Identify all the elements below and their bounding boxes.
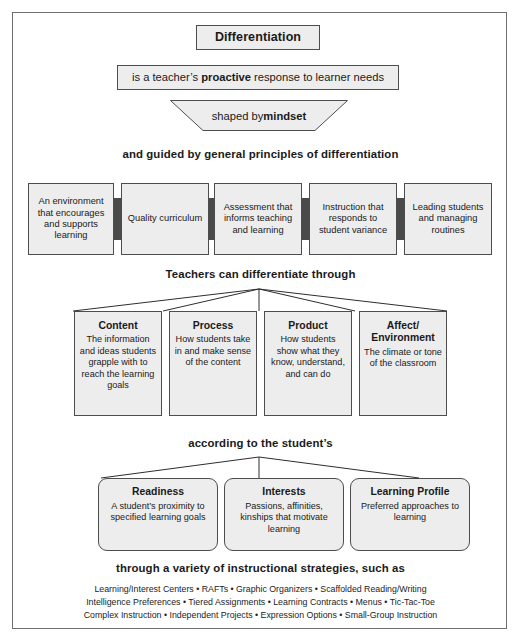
heading-strategies: through a variety of instructional strat… — [0, 562, 521, 574]
category-description: The information and ideas students grapp… — [79, 334, 157, 391]
principle-box-environment: An environment that encourages and suppo… — [28, 183, 114, 255]
heading-principles: and guided by general principles of diff… — [0, 148, 521, 160]
student-box-readiness: Readiness A student’s proximity to speci… — [98, 478, 218, 551]
statement-emphasis: proactive — [201, 71, 251, 83]
mindset-emphasis: mindset — [263, 110, 306, 122]
statement-box: is a teacher’s proactive response to lea… — [117, 65, 399, 90]
category-title: Affect/ Environment — [364, 320, 442, 345]
principle-box-instruction: Instruction that responds to student var… — [309, 183, 397, 255]
mindset-prefix: shaped by — [212, 110, 264, 122]
category-description: How students take in and make sense of t… — [174, 334, 252, 368]
student-box-learning-profile: Learning Profile Preferred approaches to… — [350, 478, 470, 551]
student-box-interests: Interests Passions, affinities, kinships… — [224, 478, 344, 551]
category-description: The climate or tone of the classroom — [364, 347, 442, 370]
principle-label: Assessment that informs teaching and lea… — [218, 202, 298, 236]
student-title: Learning Profile — [370, 486, 449, 499]
principle-label: Quality curriculum — [128, 213, 202, 224]
strategies-line-1: Learning/Interest Centers • RAFTs • Grap… — [0, 583, 521, 596]
category-title: Product — [288, 320, 327, 332]
strategies-line-2: Intelligence Preferences • Tiered Assign… — [0, 596, 521, 609]
student-description: Passions, affinities, kinships that moti… — [230, 501, 338, 536]
strategies-list: Learning/Interest Centers • RAFTs • Grap… — [0, 583, 521, 623]
category-box-affect-environment: Affect/ Environment The climate or tone … — [359, 311, 447, 416]
statement-prefix: is a teacher’s — [132, 71, 201, 83]
title-label: Differentiation — [215, 30, 301, 45]
category-description: How students show what they know, unders… — [269, 334, 347, 380]
principle-label: Instruction that responds to student var… — [313, 202, 393, 236]
principle-label: Leading students and managing routines — [408, 202, 488, 236]
principle-label: An environment that encourages and suppo… — [32, 196, 110, 241]
category-title: Process — [193, 320, 233, 332]
heading-differentiate-through: Teachers can differentiate through — [0, 268, 521, 280]
statement-suffix: response to learner needs — [251, 71, 384, 83]
mindset-text: shaped by mindset — [170, 100, 348, 131]
strategies-line-3: Complex Instruction • Independent Projec… — [0, 609, 521, 622]
student-description: A student’s proximity to specified learn… — [104, 501, 212, 524]
heading-according-to-student: according to the student’s — [0, 437, 521, 449]
differentiation-diagram: Differentiation is a teacher’s proactive… — [0, 0, 521, 642]
student-title: Readiness — [132, 486, 184, 499]
principle-box-curriculum: Quality curriculum — [121, 183, 209, 255]
principle-box-leading: Leading students and managing routines — [404, 183, 492, 255]
title-box: Differentiation — [196, 25, 320, 50]
statement-text: is a teacher’s proactive response to lea… — [132, 71, 384, 85]
mindset-trapezoid-wrap: shaped by mindset — [170, 100, 348, 131]
category-title: Content — [98, 320, 137, 332]
category-box-process: Process How students take in and make se… — [169, 311, 257, 416]
student-description: Preferred approaches to learning — [356, 501, 464, 524]
category-box-content: Content The information and ideas studen… — [74, 311, 162, 416]
student-title: Interests — [262, 486, 305, 499]
category-box-product: Product How students show what they know… — [264, 311, 352, 416]
principle-box-assessment: Assessment that informs teaching and lea… — [214, 183, 302, 255]
